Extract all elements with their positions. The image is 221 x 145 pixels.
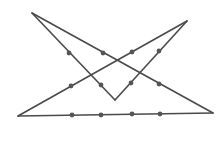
point-0 [67,51,72,56]
point-7 [157,82,162,87]
point-9 [99,113,104,118]
point-11 [158,112,163,117]
point-1 [101,51,106,56]
segment-3 [18,21,187,116]
diagram-canvas [0,0,221,145]
point-6 [129,81,134,86]
point-4 [69,84,74,89]
segment-2 [115,21,187,100]
point-5 [99,83,104,88]
point-8 [70,113,75,118]
point-2 [130,50,135,55]
point-3 [157,49,162,54]
segment-1 [32,13,115,100]
point-10 [130,112,135,117]
segment-4 [18,113,213,116]
segment-0 [32,13,213,113]
line-segments [18,13,213,116]
